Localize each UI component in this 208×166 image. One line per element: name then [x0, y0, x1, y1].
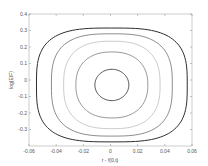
y-tick-label: 0.2 [20, 44, 27, 50]
x-tick-label: 0.02 [133, 148, 143, 154]
y-tick-label: 0.1 [20, 60, 27, 66]
x-tick-label: 0.04 [160, 148, 170, 154]
y-axis-ticks: -0.3-0.2-0.100.10.20.30.4 [18, 11, 192, 133]
x-tick-label: -0.04 [50, 148, 62, 154]
contour-2 [76, 52, 148, 118]
y-tick-label: 0.4 [20, 11, 27, 17]
y-tick-label: -0.1 [18, 93, 27, 99]
y-tick-label: -0.3 [18, 126, 27, 132]
contour-4 [51, 34, 172, 136]
y-tick-label: -0.2 [18, 110, 27, 116]
contour-1 [95, 69, 129, 100]
contour-lines [36, 28, 187, 142]
contour-3 [64, 41, 160, 128]
x-tick-label: -0.02 [78, 148, 90, 154]
x-tick-label: 0 [109, 148, 112, 154]
y-axis-label: log(E/F) [8, 71, 14, 89]
x-tick-label: 0.06 [187, 148, 197, 154]
x-axis-ticks: -0.06-0.04-0.0200.020.040.06 [23, 14, 197, 154]
x-tick-label: -0.06 [23, 148, 35, 154]
y-tick-label: 0 [24, 77, 27, 83]
contour-chart: -0.06-0.04-0.0200.020.040.06 -0.3-0.2-0.… [0, 0, 208, 166]
x-axis-label: r - f(0,t) [102, 157, 119, 163]
y-tick-label: 0.3 [20, 27, 27, 33]
contour-5 [36, 28, 187, 142]
